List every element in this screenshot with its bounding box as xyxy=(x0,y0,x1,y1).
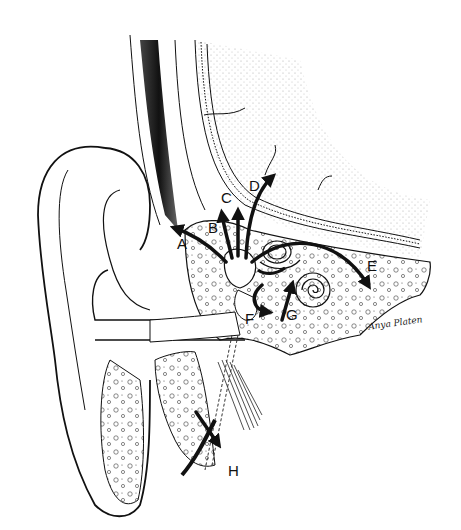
label-e: E xyxy=(367,258,377,273)
facial-nerve-canal xyxy=(205,335,232,470)
label-b: B xyxy=(208,220,218,235)
label-h: H xyxy=(228,463,239,478)
label-a: A xyxy=(177,236,187,251)
temporal-muscle xyxy=(140,40,178,230)
label-f: F xyxy=(245,311,254,326)
ear-drawing xyxy=(0,0,461,530)
label-c: C xyxy=(221,190,232,205)
label-g: G xyxy=(286,307,298,322)
mastoid-process xyxy=(155,352,215,467)
label-d: D xyxy=(249,178,260,193)
ear-anatomy-diagram: A B C D E F G H Anya Platen xyxy=(0,0,461,530)
